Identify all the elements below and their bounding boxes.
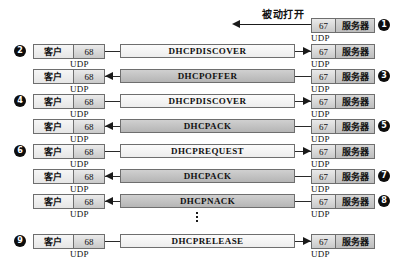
- server-udp-label: UDP: [311, 209, 330, 219]
- step-marker: 1: [378, 19, 390, 31]
- server-udp-label: UDP: [311, 59, 330, 69]
- diagram-row: 2 客户 68 UDP DHCPDISCOVER 67 服务器 UDP: [0, 44, 393, 68]
- client-port-label: 68: [73, 45, 104, 58]
- server-port-label: 67: [312, 145, 336, 158]
- arrow-right-icon: [303, 47, 311, 55]
- diagram-row: 客户 68 UDP DHCPOFFER 67 服务器 UDP 3: [0, 69, 393, 93]
- message-box: DHCPACK: [120, 169, 295, 183]
- client-udp-label: UDP: [70, 209, 89, 219]
- server-port-label: 67: [312, 170, 336, 183]
- arrow-right-icon: [303, 237, 311, 245]
- server-name-label: 服务器: [336, 19, 374, 32]
- server-node: 67 服务器: [311, 44, 375, 59]
- server-port-label: 67: [312, 120, 336, 133]
- server-udp-label: UDP: [311, 33, 330, 43]
- step-marker: 5: [378, 120, 390, 132]
- client-name-label: 客户: [34, 45, 73, 58]
- server-udp-label: UDP: [311, 109, 330, 119]
- message-box: DHCPREQUEST: [120, 144, 295, 158]
- client-udp-label: UDP: [70, 134, 89, 144]
- server-node: 67 服务器: [311, 18, 375, 33]
- server-node: 67 服务器: [311, 119, 375, 134]
- client-node: 客户 68: [33, 94, 105, 109]
- diagram-row: 9 客户 68 UDP DHCPRELEASE 67 服务器 UDP: [0, 234, 393, 258]
- message-box: DHCPRELEASE: [120, 234, 295, 248]
- client-port-label: 68: [73, 70, 104, 83]
- server-udp-label: UDP: [311, 84, 330, 94]
- server-name-label: 服务器: [336, 145, 374, 158]
- server-name-label: 服务器: [336, 195, 374, 208]
- server-name-label: 服务器: [336, 45, 374, 58]
- client-node: 客户 68: [33, 194, 105, 209]
- dhcp-sequence-diagram: 被动打开 67 服务器 UDP 1 2 客户 68 UDP DHCPDISCOV…: [0, 0, 393, 264]
- client-udp-label: UDP: [70, 84, 89, 94]
- client-name-label: 客户: [34, 70, 73, 83]
- arrow-left-icon: [105, 197, 113, 205]
- arrow-left-icon: [105, 172, 113, 180]
- client-node: 客户 68: [33, 234, 105, 249]
- step-marker: 6: [14, 145, 26, 157]
- message-box: DHCPNACK: [120, 194, 295, 208]
- arrow-right-icon: [303, 97, 311, 105]
- server-port-label: 67: [312, 95, 336, 108]
- message-box: DHCPOFFER: [120, 69, 295, 83]
- step-marker: 2: [14, 45, 26, 57]
- step-marker: 4: [14, 95, 26, 107]
- server-node: 67 服务器: [311, 94, 375, 109]
- arrow-left-icon: [105, 122, 113, 130]
- client-name-label: 客户: [34, 145, 73, 158]
- client-name-label: 客户: [34, 120, 73, 133]
- message-box: DHCPDISCOVER: [120, 44, 295, 58]
- diagram-row: 67 服务器 UDP 1: [0, 18, 393, 42]
- server-name-label: 服务器: [336, 120, 374, 133]
- server-node: 67 服务器: [311, 169, 375, 184]
- step-marker: 9: [14, 235, 26, 247]
- server-name-label: 服务器: [336, 70, 374, 83]
- client-node: 客户 68: [33, 169, 105, 184]
- diagram-row: 6 客户 68 UDP DHCPREQUEST 67 服务器 UDP: [0, 144, 393, 168]
- client-name-label: 客户: [34, 235, 73, 248]
- arrow-right-icon: [303, 147, 311, 155]
- client-name-label: 客户: [34, 170, 73, 183]
- client-node: 客户 68: [33, 119, 105, 134]
- server-port-label: 67: [312, 19, 336, 32]
- server-node: 67 服务器: [311, 144, 375, 159]
- server-name-label: 服务器: [336, 95, 374, 108]
- client-node: 客户 68: [33, 44, 105, 59]
- vertical-ellipsis-icon: [196, 212, 198, 222]
- step-marker: 8: [378, 195, 390, 207]
- server-name-label: 服务器: [336, 235, 374, 248]
- client-node: 客户 68: [33, 144, 105, 159]
- client-udp-label: UDP: [70, 159, 89, 169]
- client-udp-label: UDP: [70, 184, 89, 194]
- client-port-label: 68: [73, 95, 104, 108]
- server-port-label: 67: [312, 235, 336, 248]
- client-udp-label: UDP: [70, 249, 89, 259]
- client-name-label: 客户: [34, 195, 73, 208]
- server-udp-label: UDP: [311, 249, 330, 259]
- server-udp-label: UDP: [311, 159, 330, 169]
- client-name-label: 客户: [34, 95, 73, 108]
- diagram-row: 客户 68 UDP DHCPACK 67 服务器 UDP 5: [0, 119, 393, 143]
- step-marker: 3: [378, 70, 390, 82]
- arrow-left-icon: [105, 72, 113, 80]
- client-udp-label: UDP: [70, 109, 89, 119]
- server-port-label: 67: [312, 45, 336, 58]
- client-port-label: 68: [73, 120, 104, 133]
- message-box: DHCPDISCOVER: [120, 94, 295, 108]
- step-marker: 7: [378, 170, 390, 182]
- diagram-row: 客户 68 UDP DHCPACK 67 服务器 UDP 7: [0, 169, 393, 193]
- server-node: 67 服务器: [311, 234, 375, 249]
- client-port-label: 68: [73, 235, 104, 248]
- client-port-label: 68: [73, 145, 104, 158]
- client-node: 客户 68: [33, 69, 105, 84]
- server-name-label: 服务器: [336, 170, 374, 183]
- message-box: DHCPACK: [120, 119, 295, 133]
- server-node: 67 服务器: [311, 69, 375, 84]
- server-node: 67 服务器: [311, 194, 375, 209]
- server-udp-label: UDP: [311, 184, 330, 194]
- client-port-label: 68: [73, 195, 104, 208]
- server-udp-label: UDP: [311, 134, 330, 144]
- client-port-label: 68: [73, 170, 104, 183]
- diagram-row: 4 客户 68 UDP DHCPDISCOVER 67 服务器 UDP: [0, 94, 393, 118]
